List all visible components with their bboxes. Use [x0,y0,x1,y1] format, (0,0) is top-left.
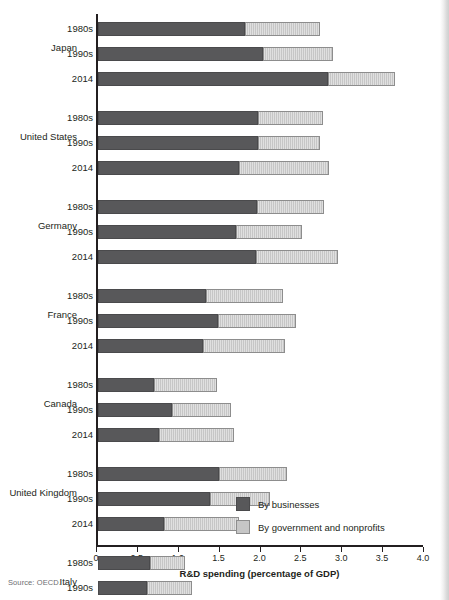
chart-row: 2014 [0,72,449,86]
country-label: France [0,309,77,321]
bar-segment-government [328,72,395,86]
bar-segment-businesses [98,111,258,125]
chart-row: 1980s [0,289,449,303]
period-label: 1980s [33,200,93,214]
bar-segment-government [258,136,320,150]
bar-segment-businesses [98,22,245,36]
stacked-bar [98,225,302,239]
stacked-bar [98,378,217,392]
country-label: United Kingdom [0,487,77,499]
stacked-bar [98,314,296,328]
period-label: 1980s [33,556,93,570]
bar-segment-businesses [98,225,236,239]
stacked-bar [98,467,287,481]
country-label: Japan [0,42,77,54]
bar-segment-government [257,200,324,214]
stacked-bar [98,47,333,61]
x-tick-mark [382,547,383,552]
bar-segment-government [147,581,192,595]
x-tick-mark [341,547,342,552]
bar-segment-government [218,314,296,328]
bar-segment-businesses [98,314,218,328]
chart-row: 2014 [0,428,449,442]
period-label: 1980s [33,378,93,392]
period-label: 2014 [33,428,93,442]
bar-segment-businesses [98,250,256,264]
bar-segment-government [258,111,323,125]
bar-segment-government [159,428,233,442]
period-label: 2014 [33,517,93,531]
bar-segment-businesses [98,339,203,353]
country-label: Canada [0,398,77,410]
bar-segment-businesses [98,467,219,481]
source-note: Source: OECD. [8,578,61,587]
x-tick-mark [300,547,301,552]
period-label: 2014 [33,339,93,353]
bar-segment-businesses [98,492,210,506]
bar-segment-government [164,517,239,531]
stacked-bar [98,289,283,303]
bar-segment-government [219,467,287,481]
legend-item-businesses: By businesses [236,497,385,511]
chart-row: 2014 [0,250,449,264]
stacked-bar [98,581,192,595]
bar-segment-government [203,339,286,353]
chart-row: 1980s [0,378,449,392]
rd-spending-chart-figure: 00.51.01.52.02.53.03.54.0 1980s1990s2014… [0,0,449,600]
chart-row: 2014 [0,339,449,353]
legend-label-businesses: By businesses [258,499,319,510]
x-tick-mark [178,547,179,552]
bar-segment-businesses [98,200,257,214]
bar-segment-businesses [98,72,328,86]
bar-segment-businesses [98,289,206,303]
bar-segment-businesses [98,581,147,595]
bar-segment-government [245,22,320,36]
period-label: 1980s [33,289,93,303]
bar-segment-businesses [98,47,263,61]
stacked-bar [98,403,231,417]
x-tick-mark [260,547,261,552]
legend-swatch-government-icon [236,520,250,534]
x-tick-mark [96,547,97,552]
x-axis-title: R&D spending (percentage of GDP) [96,568,423,579]
stacked-bar [98,250,338,264]
period-label: 2014 [33,161,93,175]
stacked-bar [98,200,324,214]
bar-segment-businesses [98,428,159,442]
legend-item-government: By government and nonprofits [236,520,385,534]
bar-segment-government [172,403,231,417]
stacked-bar [98,339,285,353]
x-tick-mark [219,547,220,552]
x-tick-mark [423,547,424,552]
country-label: Germany [0,220,77,232]
bar-segment-government [154,378,217,392]
chart-row: 1980s [0,22,449,36]
x-tick-mark [137,547,138,552]
bar-segment-businesses [98,161,239,175]
bar-segment-government [239,161,328,175]
legend-swatch-businesses-icon [236,497,250,511]
bar-segment-businesses [98,403,172,417]
chart-legend: By businesses By government and nonprofi… [236,497,385,543]
bar-segment-businesses [98,378,154,392]
legend-label-government: By government and nonprofits [258,522,385,533]
period-label: 1980s [33,467,93,481]
stacked-bar [98,161,329,175]
country-label: United States [0,131,77,143]
chart-row: 1980s [0,200,449,214]
chart-row: 1980s [0,467,449,481]
chart-row: 1980s [0,111,449,125]
stacked-bar [98,111,323,125]
chart-row: 2014 [0,161,449,175]
period-label: 2014 [33,250,93,264]
period-label: 2014 [33,72,93,86]
period-label: 1980s [33,111,93,125]
stacked-bar [98,517,239,531]
period-label: 1980s [33,22,93,36]
bar-segment-businesses [98,517,164,531]
bar-segment-government [256,250,339,264]
bar-segment-government [206,289,283,303]
stacked-bar [98,22,320,36]
stacked-bar [98,72,395,86]
stacked-bar [98,428,234,442]
